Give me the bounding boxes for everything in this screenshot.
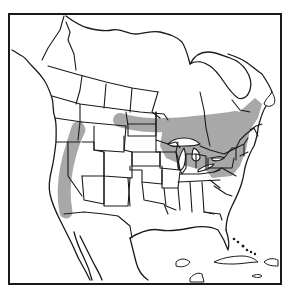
bahamas-island bbox=[237, 241, 240, 244]
bahamas-island bbox=[250, 251, 252, 253]
bahamas-island bbox=[233, 238, 236, 241]
bahamas-island bbox=[254, 253, 256, 255]
range-map bbox=[0, 0, 290, 294]
bahamas-island bbox=[242, 245, 245, 248]
jamaica bbox=[252, 275, 262, 278]
bahamas-island bbox=[246, 249, 249, 252]
